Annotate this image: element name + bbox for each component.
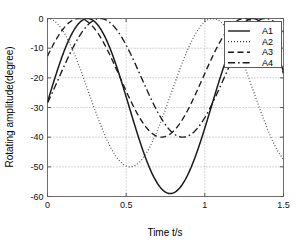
y-tick-label: -30 bbox=[30, 103, 43, 113]
legend-label-a1: A1 bbox=[262, 26, 273, 36]
x-tick-label: 1 bbox=[202, 200, 207, 210]
x-tick-label: 0 bbox=[45, 200, 50, 210]
x-tick-label: 1.5 bbox=[277, 200, 290, 210]
legend-label-a4: A4 bbox=[262, 58, 273, 68]
y-tick-label: -20 bbox=[30, 73, 43, 83]
chart-figure: 0-10-20-30-40-50-60 00.511.5 Time t/s Ro… bbox=[0, 0, 301, 242]
y-tick-label: 0 bbox=[38, 14, 43, 24]
x-tick-label: 0.5 bbox=[120, 200, 133, 210]
chart-legend: A1A2A3A4 bbox=[225, 22, 282, 69]
x-axis-title: Time t/s bbox=[147, 227, 182, 238]
legend-label-a2: A2 bbox=[262, 37, 273, 47]
y-axis-title: Rotating amplitude(degree) bbox=[4, 46, 15, 167]
legend-label-a3: A3 bbox=[262, 47, 273, 57]
y-tick-label: -40 bbox=[30, 132, 43, 142]
y-tick-label: -10 bbox=[30, 43, 43, 53]
y-tick-label: -60 bbox=[30, 192, 43, 202]
chart-svg: 0-10-20-30-40-50-60 00.511.5 Time t/s Ro… bbox=[0, 0, 301, 242]
y-tick-label: -50 bbox=[30, 162, 43, 172]
